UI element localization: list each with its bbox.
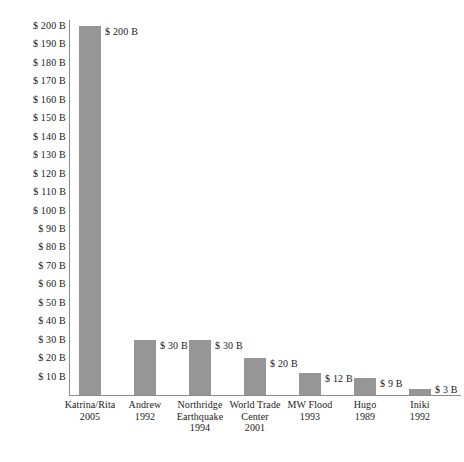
bar[interactable] [409,389,431,395]
plot-area: $ 200 B$ 190 B$ 180 B$ 170 B$ 160 B$ 150… [0,0,464,462]
category-label-line: 2001 [223,422,287,434]
bar[interactable] [189,340,211,395]
x-axis-category-label: Iniki1992 [388,399,452,422]
bar-value-label: $ 9 B [380,379,403,389]
bar-value-label: $ 20 B [270,359,298,369]
bar-chart: $ 200 B$ 190 B$ 180 B$ 170 B$ 160 B$ 150… [0,0,464,462]
bar-value-label: $ 200 B [105,27,138,37]
bar-value-label: $ 30 B [160,341,188,351]
bar[interactable] [299,373,321,395]
category-label-line: Iniki [388,399,452,411]
bar[interactable] [354,378,376,395]
bar-value-label: $ 30 B [215,341,243,351]
bar[interactable] [134,340,156,395]
bar-value-label: $ 12 B [325,374,353,384]
bar-series: $ 200 B$ 30 B$ 30 B$ 20 B$ 12 B$ 9 B$ 3 … [0,0,464,462]
bar[interactable] [79,26,101,395]
bar[interactable] [244,358,266,395]
bar-value-label: $ 3 B [435,385,458,395]
category-label-line: 1992 [388,411,452,423]
